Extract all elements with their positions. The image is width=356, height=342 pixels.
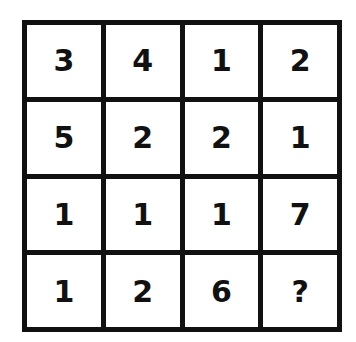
number-grid: 3 4 1 2 5 2 2 1 1 1 1 7 1 2 6 ? [22,20,342,332]
unknown-cell: ? [263,255,337,327]
grid-cell: 1 [106,179,180,251]
grid-cell: 1 [27,255,101,327]
grid-cell: 4 [106,25,180,97]
grid-cell: 2 [263,25,337,97]
grid-cell: 2 [106,255,180,327]
grid-cell: 2 [185,102,259,174]
grid-cell: 2 [106,102,180,174]
grid-cell: 1 [185,25,259,97]
grid-cell: 1 [185,179,259,251]
grid-cell: 3 [27,25,101,97]
grid-cell: 1 [27,179,101,251]
grid-cell: 7 [263,179,337,251]
grid-cell: 6 [185,255,259,327]
grid-cell: 5 [27,102,101,174]
grid-cell: 1 [263,102,337,174]
